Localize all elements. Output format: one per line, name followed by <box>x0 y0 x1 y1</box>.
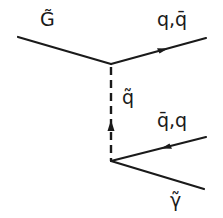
quark-in-line <box>111 137 206 161</box>
outgoing-quark-label: q,q̄ <box>157 10 187 29</box>
photino-line <box>111 161 204 189</box>
squark-label: q̃ <box>122 88 134 107</box>
gluino-label: G̃ <box>40 10 55 29</box>
gluino-line <box>18 37 111 64</box>
photino-label: γ̃ <box>170 191 181 210</box>
arrow-up-icon <box>108 120 115 131</box>
incoming-antiquark-label: q̄,q <box>157 111 187 130</box>
feynman-diagram <box>0 0 223 218</box>
arrow-right-icon <box>157 48 168 53</box>
arrow-left-icon <box>161 144 172 149</box>
